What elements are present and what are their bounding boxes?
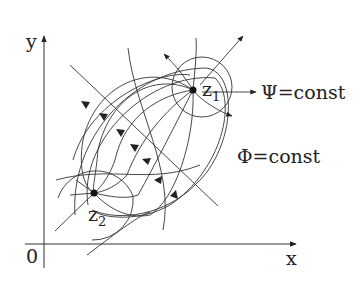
z2-label: z2 [88, 203, 106, 229]
psi-const-label: Ψ=const [261, 81, 346, 103]
x-axis-label: x [286, 247, 297, 269]
point-z2 [91, 190, 98, 197]
origin-label: 0 [26, 245, 38, 267]
point-z1 [190, 87, 197, 94]
y-axis-label: y [25, 30, 37, 52]
z1-label: z1 [202, 78, 220, 104]
complex-potential-diagram: y 0 x z1 z2 Ψ=const Φ=const [0, 0, 360, 297]
phi-const-label: Φ=const [237, 145, 321, 167]
